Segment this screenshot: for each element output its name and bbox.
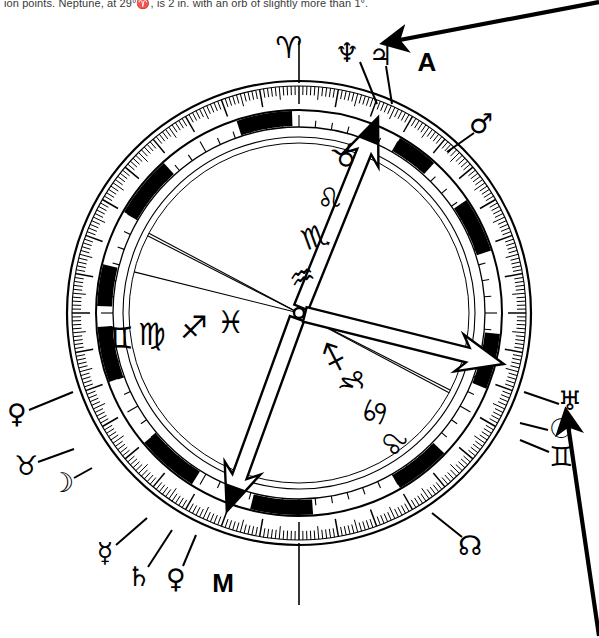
degree-tick bbox=[125, 447, 139, 459]
degree-tick bbox=[456, 464, 462, 470]
angle-label-midheaven: M bbox=[212, 568, 234, 598]
inner-sign-glyph-capricorn: ♑ bbox=[332, 362, 375, 400]
degree-tick bbox=[244, 93, 246, 102]
degree-tick bbox=[102, 418, 118, 427]
degree-tick bbox=[252, 91, 254, 100]
inner-sign-glyph-sagittarius: ♐ bbox=[180, 309, 208, 345]
degree-tick bbox=[102, 200, 118, 209]
degree-tick bbox=[218, 517, 221, 525]
degree-tick bbox=[482, 432, 490, 437]
degree-tick bbox=[511, 362, 520, 364]
degree-tick bbox=[179, 498, 184, 506]
degree-tick bbox=[384, 104, 388, 112]
degree-tick bbox=[89, 228, 97, 231]
degree-tick bbox=[74, 340, 83, 341]
degree-tick bbox=[433, 473, 445, 487]
degree-tick bbox=[279, 526, 280, 539]
inner-degree-tick bbox=[451, 202, 457, 206]
degree-tick bbox=[352, 525, 354, 534]
degree-tick bbox=[83, 243, 92, 246]
degree-tick bbox=[153, 473, 165, 487]
degree-tick bbox=[404, 494, 413, 510]
planet-glyph-sun: ☉ bbox=[549, 413, 573, 444]
degree-tick bbox=[144, 472, 150, 479]
degree-tick bbox=[73, 293, 86, 294]
degree-tick bbox=[418, 123, 423, 131]
degree-tick bbox=[196, 111, 200, 119]
degree-tick bbox=[486, 425, 494, 430]
pointer-line-venus bbox=[29, 392, 73, 410]
pointer-line-saturn bbox=[148, 530, 172, 567]
degree-tick bbox=[233, 521, 236, 530]
degree-tick bbox=[484, 193, 492, 198]
degree-tick bbox=[260, 89, 263, 107]
degree-tick bbox=[83, 380, 92, 383]
black-ring-segment-2 bbox=[105, 266, 111, 306]
degree-tick bbox=[73, 336, 82, 337]
degree-tick bbox=[115, 441, 122, 446]
degree-tick bbox=[73, 297, 82, 298]
degree-tick bbox=[511, 366, 520, 368]
degree-tick bbox=[147, 144, 153, 151]
degree-tick bbox=[138, 464, 147, 473]
degree-tick bbox=[411, 118, 416, 126]
inner-degree-tick bbox=[200, 142, 206, 152]
degree-tick bbox=[436, 137, 442, 144]
degree-tick bbox=[421, 125, 426, 132]
degree-tick bbox=[77, 266, 86, 268]
degree-tick bbox=[99, 415, 107, 419]
degree-tick bbox=[381, 103, 384, 111]
degree-tick bbox=[118, 444, 125, 449]
degree-tick bbox=[482, 189, 490, 194]
degree-tick bbox=[248, 525, 250, 534]
degree-tick bbox=[484, 429, 492, 434]
degree-tick bbox=[236, 95, 238, 104]
degree-tick bbox=[505, 349, 523, 352]
degree-tick bbox=[493, 412, 501, 416]
degree-tick bbox=[468, 450, 475, 456]
degree-tick bbox=[326, 529, 327, 538]
degree-tick bbox=[244, 525, 246, 534]
pointer-line-sun bbox=[520, 423, 548, 430]
top-right-annotation-arrow bbox=[384, 2, 599, 43]
degree-tick bbox=[199, 109, 203, 117]
degree-tick bbox=[354, 94, 357, 107]
degree-tick bbox=[100, 203, 108, 207]
degree-tick bbox=[104, 425, 112, 430]
degree-tick bbox=[172, 494, 177, 501]
degree-tick bbox=[401, 113, 405, 121]
degree-tick bbox=[341, 90, 343, 99]
degree-tick bbox=[458, 158, 465, 164]
inner-degree-tick bbox=[249, 493, 251, 500]
degree-tick bbox=[506, 254, 519, 257]
degree-tick bbox=[175, 123, 180, 131]
degree-tick bbox=[507, 247, 516, 250]
degree-tick bbox=[404, 116, 413, 132]
sign-glyph-aries: ♈ bbox=[276, 30, 303, 65]
degree-tick bbox=[471, 173, 478, 179]
inner-degree-tick bbox=[175, 165, 180, 170]
pointer-line-pluto bbox=[183, 535, 196, 566]
degree-tick bbox=[326, 88, 327, 97]
degree-tick bbox=[76, 355, 85, 357]
planet-glyph-north-node: ☊ bbox=[458, 530, 482, 561]
degree-tick bbox=[111, 186, 118, 191]
degree-tick bbox=[75, 349, 93, 352]
astrology-wheel-figure: ♈♊♍♐♓♐♑♋♌♉♌♏♒♆♃♂♅☉♊☊♀♉☽☿♄♀AM bbox=[0, 0, 599, 638]
degree-tick bbox=[450, 464, 459, 473]
degree-tick bbox=[498, 402, 506, 406]
degree-tick bbox=[80, 368, 93, 371]
degree-tick bbox=[333, 528, 334, 537]
inner-degree-tick bbox=[331, 123, 332, 130]
degree-tick bbox=[329, 529, 330, 538]
degree-tick bbox=[90, 398, 98, 402]
angle-label-ascendant: A bbox=[418, 47, 437, 77]
degree-tick bbox=[115, 180, 122, 185]
degree-tick bbox=[73, 332, 86, 333]
degree-tick bbox=[147, 475, 153, 482]
degree-tick bbox=[75, 347, 84, 348]
degree-tick bbox=[81, 250, 90, 252]
degree-tick bbox=[138, 152, 147, 161]
inner-degree-tick bbox=[460, 406, 470, 412]
degree-tick bbox=[398, 507, 402, 515]
